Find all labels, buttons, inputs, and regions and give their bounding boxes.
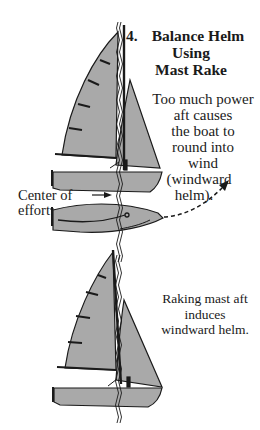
bottom-sailboat [53,250,162,407]
page-title: 4. Balance Helm Using Mast Rake [126,27,256,78]
top-caption: Too much power aft causes the boat to ro… [146,91,260,203]
top-caption-line: aft causes [146,107,260,123]
title-line-1: Balance Helm [126,27,256,44]
top-caption-line: Too much power [146,91,260,107]
title-line-3: Mast Rake [126,61,256,78]
top-caption-line: wind [146,155,260,171]
top-caption-line: helm). [128,187,260,203]
step-number: 4. [126,27,138,44]
top-caption-line: round into [146,139,260,155]
bottom-caption-line: induces [150,307,260,323]
bottom-mainsail [65,252,116,370]
bottom-caption-line: windward helm. [150,322,260,338]
center-of-effort-label: Center of effort [18,188,88,218]
bottom-caption: Raking mast aft induces windward helm. [150,291,260,338]
top-caption-line: the boat to [146,123,260,139]
label-line-1: Center of [18,188,88,203]
bottom-hull [54,388,162,407]
title-line-2: Using [126,44,256,61]
top-caption-line: (windward [138,171,260,187]
label-line-2: effort [18,203,88,218]
top-mainsail [62,32,118,158]
right-arrow-icon [92,192,112,198]
bottom-caption-line: Raking mast aft [150,291,260,307]
